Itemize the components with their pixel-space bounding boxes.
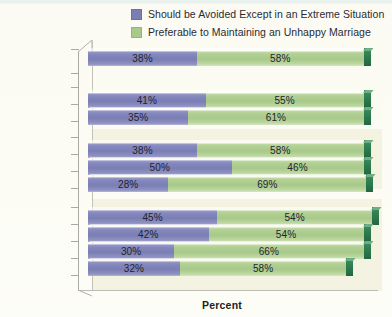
segment-preferable: 55% [206,93,364,108]
segment-preferable: 61% [188,110,363,125]
segment-preferable: 54% [209,227,364,242]
segment-value-label: 58% [270,54,290,64]
segment-avoided: 50% [88,160,232,175]
segment-avoided: 28% [88,177,168,192]
segment-value-label: 28% [118,180,138,190]
segment-value-label: 30% [121,247,141,257]
axis-tick [71,49,79,50]
bar-end-cap [372,207,379,225]
segment-value-label: 55% [274,96,294,106]
segment-value-label: 46% [287,163,307,173]
bar-end-cap [364,140,371,158]
legend-label: Should be Avoided Except in an Extreme S… [148,8,384,20]
bar-end-cap [364,48,371,66]
axis-tick [71,258,79,259]
segment-value-label: 61% [266,113,286,123]
segment-value-label: 42% [138,230,158,240]
plot-area: All Adults38%58%Men41%55%Women35%61%Whit… [0,41,392,297]
segment-value-label: 54% [276,230,296,240]
segment-value-label: 38% [132,54,152,64]
segment-preferable: 58% [180,261,346,276]
stacked-bar: 30%66% [88,244,364,259]
segment-avoided: 38% [88,51,197,66]
legend-item-preferable: Preferable to Maintaining an Unhappy Mar… [131,24,384,40]
legend-label: Preferable to Maintaining an Unhappy Mar… [148,26,371,38]
axis-tick [71,207,79,208]
stacked-bar: 50%46% [88,160,364,175]
segment-avoided: 30% [88,244,174,259]
axis-tick [71,104,79,105]
axis-tick [71,241,79,242]
axis-tick [71,275,79,276]
axis-tick [71,137,79,138]
axis-tick [71,154,79,155]
stacked-bar: 41%55% [88,93,364,108]
stacked-bar: 28%69% [88,177,366,192]
segment-avoided: 42% [88,227,209,242]
segment-value-label: 69% [257,180,277,190]
chart-legend: Should be Avoided Except in an Extreme S… [131,6,384,40]
segment-avoided: 41% [88,93,206,108]
segment-value-label: 50% [150,163,170,173]
stacked-bar: 32%58% [88,261,346,276]
stacked-bar: 35%61% [88,110,364,125]
x-axis-baseline [78,290,378,291]
segment-avoided: 32% [88,261,180,276]
segment-avoided: 38% [88,143,197,158]
segment-preferable: 58% [197,143,363,158]
bar-end-cap [364,157,371,175]
axis-tick [71,224,79,225]
segment-avoided: 35% [88,110,188,125]
segment-preferable: 58% [197,51,363,66]
segment-value-label: 35% [128,113,148,123]
bar-end-cap [364,241,371,259]
stacked-bar: 45%54% [88,210,372,225]
stacked-bar-chart: Should be Avoided Except in an Extreme S… [0,0,392,317]
segment-preferable: 54% [217,210,372,225]
segment-value-label: 41% [137,96,157,106]
segment-preferable: 69% [168,177,366,192]
axis-tick [71,188,79,189]
bar-end-cap [364,90,371,108]
bar-end-cap [364,224,371,242]
axis-3d-corner-bottom [78,284,93,297]
x-axis-title: Percent [0,299,392,311]
bar-end-cap [346,258,353,276]
stacked-bar: 42%54% [88,227,364,242]
segment-value-label: 58% [253,264,273,274]
segment-value-label: 45% [142,213,162,223]
bar-end-cap [366,174,373,192]
segment-preferable: 46% [232,160,364,175]
segment-value-label: 66% [259,247,279,257]
stacked-bar: 38%58% [88,143,364,158]
segment-avoided: 45% [88,210,217,225]
bar-end-cap [364,107,371,125]
segment-value-label: 32% [124,264,144,274]
axis-tick [71,121,79,122]
axis-tick [71,73,79,74]
legend-item-avoided: Should be Avoided Except in an Extreme S… [131,6,384,22]
segment-value-label: 38% [132,146,152,156]
axis-tick [71,171,79,172]
legend-swatch-icon [131,27,142,38]
legend-swatch-icon [131,9,142,20]
stacked-bar: 38%58% [88,51,364,66]
axis-tick [71,87,79,88]
segment-value-label: 54% [284,213,304,223]
segment-preferable: 66% [174,244,363,259]
segment-value-label: 58% [270,146,290,156]
